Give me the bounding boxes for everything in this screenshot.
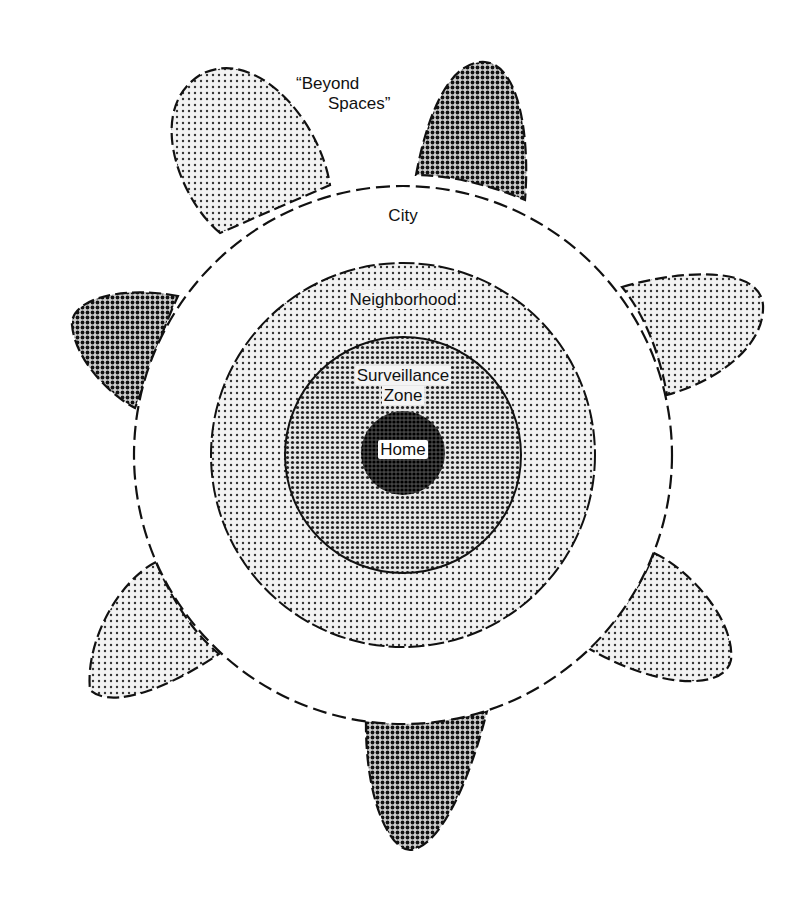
beyond-space-top-right bbox=[416, 62, 526, 200]
home-label: Home bbox=[353, 440, 453, 460]
beyond-spaces-label: “Beyond Spaces” bbox=[296, 74, 416, 113]
home-label-text: Home bbox=[378, 440, 427, 459]
surveillance-zone-label: Surveillance Zone bbox=[323, 366, 483, 405]
neighborhood-label-text: Neighborhood bbox=[348, 290, 459, 309]
beyond-label-line1: “Beyond bbox=[296, 74, 416, 94]
city-label: City bbox=[353, 206, 453, 226]
city-label-text: City bbox=[388, 206, 417, 225]
surveillance-label-line1: Surveillance bbox=[355, 366, 452, 385]
surveillance-label-line2: Zone bbox=[382, 386, 425, 405]
neighborhood-label: Neighborhood bbox=[303, 290, 503, 310]
beyond-label-line2: Spaces” bbox=[296, 94, 416, 114]
beyond-space-bottom bbox=[366, 711, 487, 850]
